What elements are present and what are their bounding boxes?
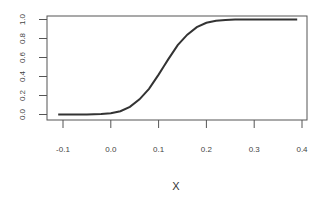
cdf-curve	[58, 20, 297, 115]
x-tick-label: 0.2	[201, 145, 213, 154]
x-axis-title: X	[172, 180, 180, 192]
y-tick-label: 0.8	[18, 32, 27, 44]
chart: -0.10.00.10.20.30.4 0.00.20.40.60.81.0 X	[0, 0, 321, 199]
y-axis: 0.00.20.40.60.81.0	[18, 13, 47, 120]
y-tick-label: 1.0	[18, 13, 27, 25]
x-tick-label: 0.1	[153, 145, 165, 154]
x-tick-label: 0.4	[296, 145, 308, 154]
y-tick-label: 0.4	[18, 70, 27, 82]
x-axis: -0.10.00.10.20.30.4	[56, 120, 308, 154]
y-tick-label: 0.0	[18, 108, 27, 120]
x-tick-label: 0.3	[249, 145, 261, 154]
y-tick-label: 0.6	[18, 51, 27, 63]
plot-frame	[47, 16, 307, 120]
x-tick-label: -0.1	[56, 145, 70, 154]
x-tick-label: 0.0	[105, 145, 117, 154]
y-tick-label: 0.2	[18, 89, 27, 101]
